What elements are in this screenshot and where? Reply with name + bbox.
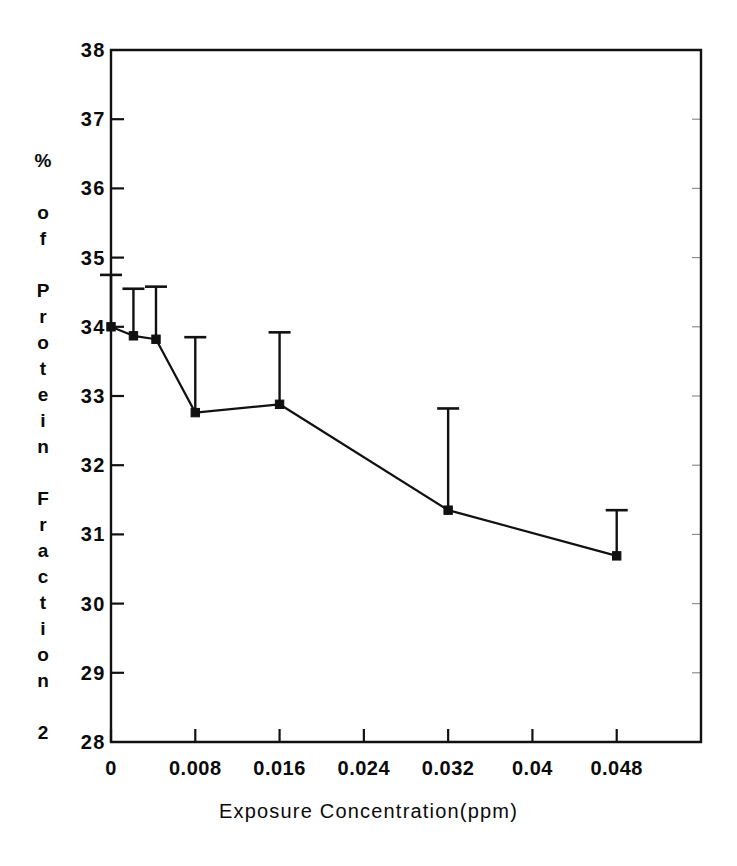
data-point-marker [613, 552, 621, 560]
data-point-marker [107, 323, 115, 331]
data-point-marker [129, 332, 137, 340]
chart-figure: %ofProteinFraction2 28293031323334353637… [0, 0, 737, 866]
data-point-marker [275, 400, 283, 408]
data-point-marker [191, 408, 199, 416]
data-point-marker [444, 506, 452, 514]
data-line [111, 327, 617, 556]
data-point-marker [152, 335, 160, 343]
plot-area [0, 0, 737, 866]
axis-frame [111, 50, 701, 742]
